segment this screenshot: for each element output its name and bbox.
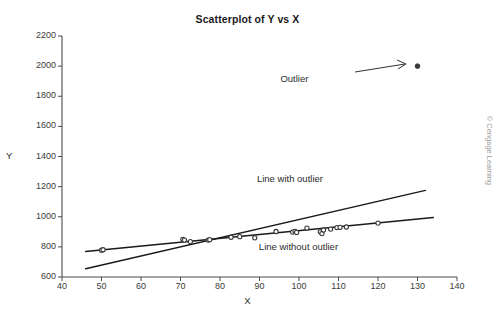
data-point (101, 248, 105, 252)
copyright-credit: © Cengage Learning (485, 116, 494, 185)
data-point (344, 225, 348, 229)
data-point (238, 235, 242, 239)
data-point (321, 228, 325, 232)
outlier-point-group (415, 64, 420, 69)
plot-canvas (0, 0, 495, 318)
data-point (295, 230, 299, 234)
regression-lines (86, 190, 434, 268)
axis-tick-marks (58, 36, 457, 281)
data-point (274, 229, 278, 233)
annotation-outlier: Outlier (280, 73, 308, 84)
data-point (208, 238, 212, 242)
regression-line-0 (86, 190, 426, 268)
data-point (376, 221, 380, 225)
data-point (229, 235, 233, 239)
data-point (182, 238, 186, 242)
outlier-point (415, 64, 420, 69)
scatterplot-figure: Scatterplot of Y vs X Y X 60080010001200… (0, 0, 495, 318)
data-point (329, 227, 333, 231)
outlier-arrow (355, 60, 406, 72)
data-point (253, 236, 257, 240)
outlier-arrow-shaft (355, 64, 405, 72)
data-point (305, 226, 309, 230)
data-point (338, 225, 342, 229)
annotation-line-with-outlier: Line with outlier (257, 173, 323, 184)
annotation-line-without-outlier: Line without outlier (259, 241, 338, 252)
data-point (188, 240, 192, 244)
